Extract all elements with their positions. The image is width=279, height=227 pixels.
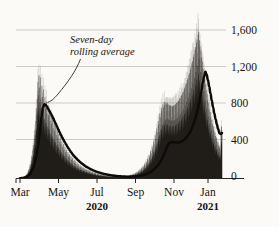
ytick-label-1200: 1,200 bbox=[231, 61, 257, 74]
chart-figure: 1,600 1,200 800 400 0 Mar May Jul Sep No… bbox=[0, 0, 279, 227]
xtick-label-nov: Nov bbox=[164, 186, 184, 198]
year-label-2020: 2020 bbox=[86, 200, 109, 212]
ytick-label-400: 400 bbox=[231, 134, 249, 146]
xtick-label-jan: Jan bbox=[200, 186, 216, 198]
ytick-label-0: 0 bbox=[231, 170, 237, 182]
xtick-label-mar: Mar bbox=[10, 186, 29, 198]
ytick-label-800: 800 bbox=[231, 97, 249, 109]
annotation-line-2: rolling average bbox=[70, 46, 135, 57]
ytick-label-1600: 1,600 bbox=[231, 24, 257, 37]
xtick-label-jul: Jul bbox=[90, 186, 103, 198]
xtick-label-sep: Sep bbox=[127, 186, 145, 199]
annotation-line-1: Seven-day bbox=[70, 34, 113, 45]
year-label-2021: 2021 bbox=[197, 200, 219, 212]
xtick-label-may: May bbox=[48, 186, 69, 199]
chart-canvas: 1,600 1,200 800 400 0 Mar May Jul Sep No… bbox=[0, 0, 279, 227]
